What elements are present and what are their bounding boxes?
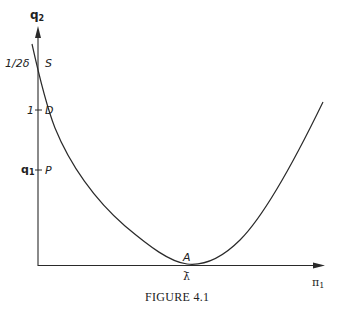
figure-caption: FIGURE 4.1 [145,290,209,305]
x-axis-arrow-icon [313,263,325,269]
tick-label-q1-main: q [21,163,29,176]
y-axis-label-main: q [30,8,39,22]
figure-4-1: q2 1/2δ S 1 D q1 P A λ̄ π1 FIGURE 4.1 [0,0,342,311]
y-axis-arrow-icon [35,26,41,38]
point-label-s: S [45,58,52,69]
y-axis-label: q2 [30,9,44,21]
point-label-d: D [45,105,53,116]
tick-label-q1: q1 [21,164,34,175]
tick-label-q1-sub: 1 [29,168,35,177]
curve [32,44,323,264]
x-axis-label: π1 [312,277,324,288]
diagram-svg [0,0,342,311]
y-axis-label-sub: 2 [39,14,45,23]
point-label-a: A [183,252,191,263]
x-axis-label-sub: 1 [319,281,324,290]
tick-label-one: 1 [27,105,34,116]
point-label-p: P [45,165,52,176]
tick-label-half-delta: 1/2δ [5,58,29,69]
x-tick-label-lambda: λ̄ [183,271,190,282]
